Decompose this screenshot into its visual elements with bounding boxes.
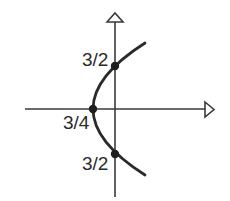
- upper-intercept-label: 3/2: [82, 49, 108, 70]
- y-axis-arrow-icon: [107, 13, 123, 22]
- lower-intercept-label: 3/2: [82, 153, 108, 174]
- lower-intercept-point: [111, 150, 119, 158]
- vertex-label: 3/4: [63, 112, 90, 133]
- x-axis: [25, 102, 214, 117]
- upper-intercept-point: [111, 62, 119, 70]
- vertex-point: [89, 105, 97, 113]
- x-axis-arrow-icon: [205, 102, 214, 117]
- parabola-diagram: 3/2 3/4 3/2: [0, 0, 230, 201]
- y-axis: [107, 13, 123, 197]
